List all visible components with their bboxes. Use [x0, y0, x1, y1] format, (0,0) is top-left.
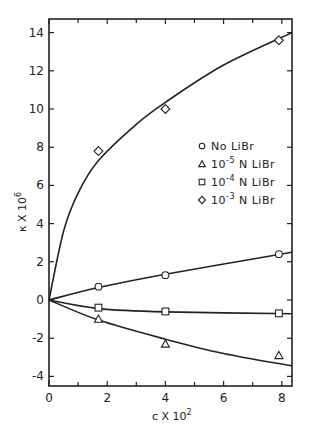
curve-square — [49, 300, 292, 314]
square-marker-icon — [162, 308, 169, 315]
y-tick-label: 8 — [36, 140, 44, 154]
diamond-marker-icon — [161, 105, 170, 114]
y-tick-label: 2 — [36, 255, 44, 269]
legend-label: 10-4 N LiBr — [211, 174, 275, 189]
x-tick-label: 4 — [162, 391, 170, 405]
curve-circle — [49, 252, 292, 300]
y-tick-label: 14 — [29, 26, 44, 40]
chart: 02468-4-202468101214 c X 102 κ X 106 No … — [0, 0, 312, 434]
triangle-marker-icon — [275, 351, 283, 358]
circle-marker-icon — [199, 143, 205, 149]
y-tick-label: 0 — [36, 293, 44, 307]
x-tick-label: 2 — [103, 391, 111, 405]
circle-marker-icon — [162, 272, 169, 279]
x-tick-label: 0 — [45, 391, 53, 405]
y-tick-label: -4 — [32, 369, 44, 383]
y-tick-label: 12 — [29, 64, 44, 78]
diamond-marker-icon — [198, 196, 205, 203]
legend-label: 10-5 N LiBr — [211, 156, 275, 171]
y-tick-label: 10 — [29, 102, 44, 116]
x-tick-label: 8 — [278, 391, 286, 405]
legend-label: No LiBr — [211, 140, 254, 153]
diamond-marker-icon — [94, 147, 103, 156]
axis-tick-labels: 02468-4-202468101214 — [29, 26, 286, 405]
legend-label: 10-3 N LiBr — [211, 192, 275, 207]
x-tick-label: 6 — [220, 391, 228, 405]
legend: No LiBr10-5 N LiBr10-4 N LiBr10-3 N LiBr — [198, 140, 275, 207]
y-axis-title: κ X 106 — [14, 192, 29, 232]
y-tick-label: -2 — [32, 331, 44, 345]
circle-marker-icon — [275, 251, 282, 258]
x-axis-title: c X 102 — [152, 408, 192, 423]
y-tick-label: 4 — [36, 217, 44, 231]
square-marker-icon — [95, 304, 102, 311]
square-marker-icon — [199, 179, 205, 185]
circle-marker-icon — [95, 283, 102, 290]
curve-triangle — [49, 300, 292, 366]
triangle-marker-icon — [161, 340, 169, 347]
triangle-marker-icon — [199, 161, 206, 167]
y-tick-label: 6 — [36, 178, 44, 192]
square-marker-icon — [275, 310, 282, 317]
